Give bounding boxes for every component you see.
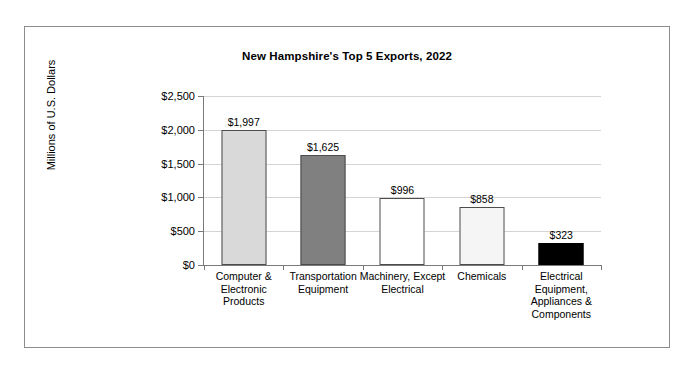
y-tick-label-2500: $2,500 (161, 90, 195, 102)
y-tick-label-500: $500 (171, 225, 195, 237)
y-tick-label-1500: $1,500 (161, 158, 195, 170)
y-tick-label-1000: $1,000 (161, 191, 195, 203)
bar-value-label: $323 (550, 229, 573, 241)
bar-group: $858 Chemicals (442, 96, 521, 265)
x-category-label-1: Transportation Equipment (280, 270, 366, 295)
chart-title: New Hampshire's Top 5 Exports, 2022 (25, 50, 669, 62)
bar-machinery-except-electrical[interactable] (380, 198, 425, 265)
x-category-label-0: Computer & Electronic Products (201, 270, 287, 308)
x-category-label-2: Machinery, Except Electrical (359, 270, 445, 295)
bar-group: $1,625 Transportation Equipment (283, 96, 362, 265)
bar-computer-electronic-products[interactable] (221, 130, 266, 265)
x-category-label-4: Electrical Equipment, Appliances & Compo… (518, 270, 604, 320)
bar-transportation-equipment[interactable] (301, 155, 346, 265)
y-axis-title: Millions of U.S. Dollars (45, 35, 61, 195)
bar-value-label: $996 (391, 184, 414, 196)
bar-chemicals[interactable] (459, 207, 504, 265)
y-tick-label-2000: $2,000 (161, 124, 195, 136)
bar-group: $1,997 Computer & Electronic Products (204, 96, 283, 265)
bar-value-label: $1,997 (228, 116, 260, 128)
chart-frame: New Hampshire's Top 5 Exports, 2022 Mill… (24, 26, 670, 348)
x-category-label-3: Chemicals (439, 270, 525, 283)
y-tick-label-0: $0 (183, 259, 195, 271)
bar-value-label: $858 (470, 193, 493, 205)
bar-electrical-equipment-appliances-components[interactable] (539, 243, 584, 265)
x-axis-line (204, 265, 601, 266)
bar-value-label: $1,625 (307, 141, 339, 153)
plot-area: $2,500 $2,000 $1,500 $1,000 $500 $0 $1,9… (204, 96, 601, 265)
bar-group: $323 Electrical Equipment, Appliances & … (522, 96, 601, 265)
bar-group: $996 Machinery, Except Electrical (363, 96, 442, 265)
